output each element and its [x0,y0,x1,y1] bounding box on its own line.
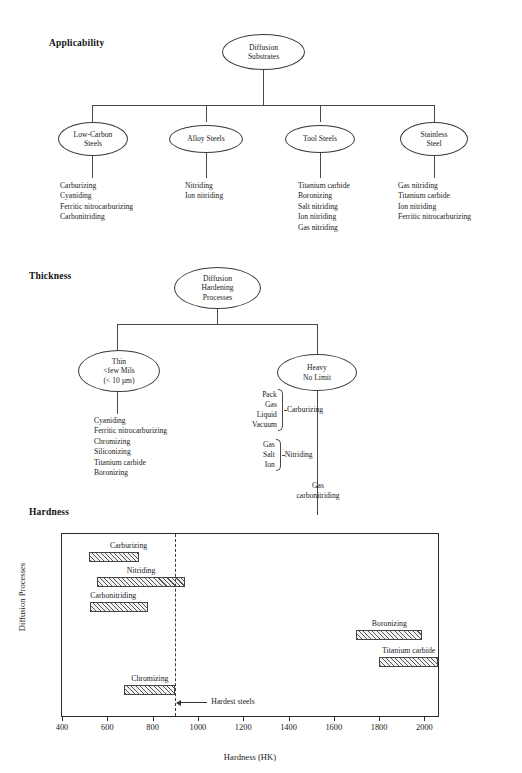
x-axis-title: Hardness (HK) [61,752,439,762]
bar-label-carburizing: Carburizing [110,541,147,550]
node-low-carbon-steels: Low-Carbon Steels [58,122,128,156]
brace-item: Pack [252,390,277,400]
node-line: Stainless [420,130,447,139]
brace-group-carburizing: Pack Gas Liquid Vacuum Carburizing [252,388,323,432]
node-line: <few Mils [103,366,135,375]
bar-titanium-carbide [379,657,438,667]
leaf-item: Gas nitriding [298,223,350,233]
x-tick-label: 1400 [280,723,297,732]
node-line: Low-Carbon [74,130,113,139]
leaf-item: Gas [289,481,347,491]
bar-nitriding [97,577,185,587]
x-tick-label: 1600 [325,723,342,732]
node-line: Alloy Steels [187,134,224,143]
brace-item: Liquid [252,410,277,420]
leaf-item: Titanium carbide [298,181,350,191]
x-tick-label: 1200 [235,723,252,732]
brace-label-carburizing: Carburizing [286,405,323,415]
brace-item: Gas [252,400,277,410]
bar-boronizing [356,630,422,640]
bar-label-boronizing: Boronizing [372,619,407,628]
x-tick [243,717,244,721]
tree-connector-root [263,70,264,105]
tree-connector-heavy [317,324,318,354]
leaf-gas-carbonitriding: Gas carbonitriding [289,481,347,502]
leaf-item: Ion nitriding [398,202,471,212]
threshold-line-hardest-steels [175,534,176,716]
bar-label-carbonitriding: Carbonitriding [90,591,136,600]
node-heavy-no-limit: Heavy No Limit [277,354,357,391]
leaf-list-alloy-steels: Nitriding Ion nitriding [185,181,223,202]
leaf-item: Gas nitriding [398,181,471,191]
section-title-thickness: Thickness [29,271,71,281]
leaf-list-low-carbon-steels: Carburizing Cyaniding Ferritic nitrocarb… [60,181,133,223]
node-stainless-steel: Stainless Steel [400,122,468,156]
x-tick-label: 1800 [371,723,388,732]
leaf-item: carbonitriding [289,491,347,501]
bar-chromizing [124,685,175,695]
x-tick [424,717,425,721]
leaf-item: Carburizing [60,181,133,191]
leaf-list-stainless-steel: Gas nitriding Titanium carbide Ion nitri… [398,181,471,223]
brace-item: Vacuum [252,420,277,430]
brace-items-nitriding: Gas Salt Ion [263,440,275,471]
leaf-list-tool-steels: Titanium carbide Boronizing Salt nitridi… [298,181,350,233]
brace-items-carburizing: Pack Gas Liquid Vacuum [252,390,277,431]
threshold-annotation-line [179,702,207,703]
section-title-hardness: Hardness [29,507,69,517]
x-tick-label: 2000 [416,723,433,732]
node-line: (< 10 µm) [103,376,134,385]
node-line: Thin [112,357,126,366]
tree-connector-leaf-2 [206,153,207,178]
node-line: Processes [203,293,233,302]
x-tick-label: 1000 [190,723,207,732]
x-tick-label: 600 [101,723,114,732]
x-tick-label: 400 [56,723,69,732]
x-tick [62,717,63,721]
leaf-item: Nitriding [185,181,223,191]
threshold-annotation-label: Hardest steels [211,697,255,706]
bar-label-chromizing: Chromizing [131,674,168,683]
bar-carbonitriding [90,602,148,612]
tree-connector-thin-leaf [117,392,118,414]
plot-inner: CarburizingNitridingCarbonitridingBoroni… [62,534,438,716]
x-tick-label: 800 [146,723,159,732]
x-axis: 400600800100012001400160018002000 [61,717,439,737]
leaf-item: Siliconizing [94,447,167,457]
leaf-item: Boronizing [298,191,350,201]
x-tick [198,717,199,721]
tree-connector-branch-2 [206,105,207,122]
leaf-item: Cyaniding [94,416,167,426]
bar-carburizing [89,552,139,562]
leaf-item: Carbonitriding [60,212,133,222]
tree-connector-branch-4 [434,105,435,122]
brace-icon [276,438,283,472]
node-thin: Thin <few Mils (< 10 µm) [78,350,160,392]
tree-connector-leaf-1 [92,156,93,178]
tree-connector-leaf-3 [320,153,321,178]
tree-connector-thin [117,324,118,350]
node-alloy-steels: Alloy Steels [169,125,243,153]
leaf-item: Ion nitriding [185,191,223,201]
leaf-item: Ion nitriding [298,212,350,222]
leaf-item: Ferritic nitrocarburizing [60,202,133,212]
tree-connector-thickness-root [217,309,218,324]
diagram-page: Applicability Diffusion Substrates Low-C… [0,0,522,773]
section-title-applicability: Applicability [49,38,104,48]
node-line: Tool Steels [303,134,337,143]
tree-connector-branch-1 [92,105,93,122]
tree-connector-branch-3 [320,105,321,122]
node-line: Steels [84,139,102,148]
leaf-item: Chromizing [94,437,167,447]
brace-item: Gas [263,440,275,450]
node-line: Hardening [201,283,233,292]
threshold-annotation-arrow-icon [176,700,181,706]
tree-bus-applicability [92,105,434,106]
brace-item: Ion [263,460,275,470]
leaf-item: Titanium carbide [398,191,471,201]
brace-group-nitriding: Gas Salt Ion Nitriding [263,438,313,472]
x-tick [107,717,108,721]
hardness-chart-plot-area: CarburizingNitridingCarbonitridingBoroni… [61,533,439,717]
node-line: Diffusion [249,43,278,52]
node-tool-steels: Tool Steels [285,125,355,153]
